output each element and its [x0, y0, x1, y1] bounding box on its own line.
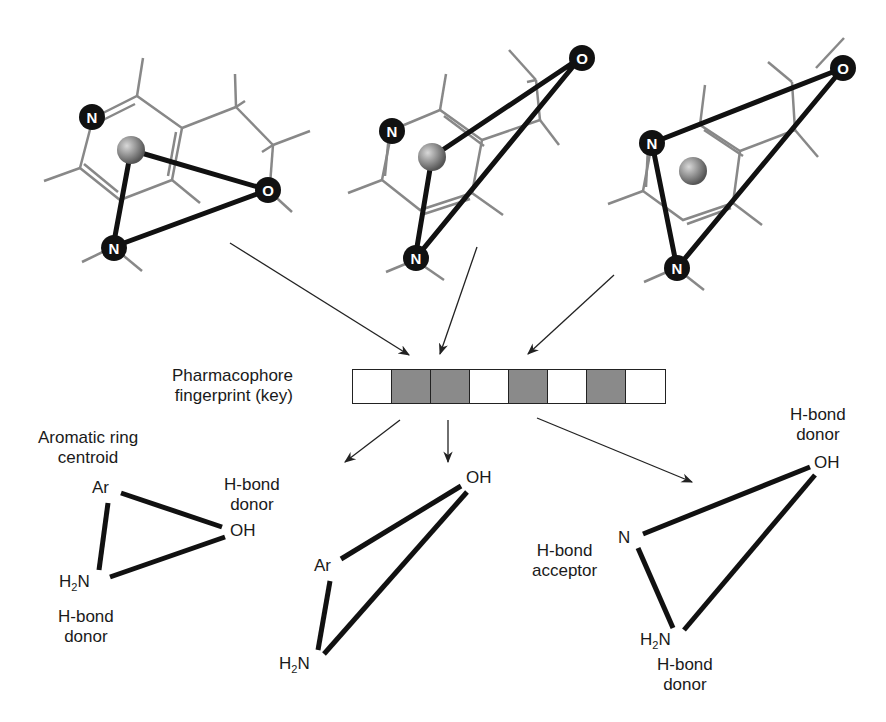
aromatic-centroid-label: Aromatic ring centroid [38, 428, 138, 468]
node-oh: OH [466, 468, 492, 488]
node-n: N [618, 528, 630, 548]
label-line: centroid [38, 448, 138, 468]
pharmacophore-3-edges [638, 467, 815, 630]
arrows-out [345, 418, 692, 482]
svg-text:O: O [576, 50, 588, 67]
node-nh2: H2N [279, 654, 310, 679]
label-line: H-bond [657, 655, 713, 675]
fingerprint-label-line2: fingerprint (key) [172, 386, 293, 406]
aromatic-centroid-ball [418, 143, 446, 171]
node-ar: Ar [92, 478, 109, 498]
svg-text:N: N [87, 109, 98, 126]
label-line: donor [58, 627, 114, 647]
label-line: Aromatic ring [38, 428, 138, 448]
molecule-2 [348, 50, 559, 280]
label-line: acceptor [532, 561, 597, 581]
fingerprint-bit-0 [353, 370, 392, 403]
arrow-icon [537, 418, 692, 482]
fingerprint-bar [352, 369, 666, 404]
svg-text:O: O [837, 60, 849, 77]
fingerprint-bit-5 [548, 370, 587, 403]
pharmacophore-1-edges [99, 493, 225, 577]
svg-text:N: N [411, 250, 422, 267]
fingerprint-bit-1 [392, 370, 431, 403]
label-line: H-bond [58, 607, 114, 627]
label-line: donor [224, 495, 280, 515]
diagram-graphics: N O N N [0, 0, 886, 722]
molecule-3 [608, 38, 844, 290]
hbond-donor-label: H-bond donor [224, 475, 280, 515]
label-line: donor [790, 425, 846, 445]
node-oh: OH [230, 521, 256, 541]
fingerprint-bit-6 [587, 370, 626, 403]
fingerprint-bit-3 [470, 370, 509, 403]
svg-text:N: N [672, 260, 683, 277]
arrow-icon [230, 243, 409, 355]
aromatic-centroid-ball [117, 136, 145, 164]
arrow-icon [528, 275, 614, 354]
pharmacophore-diagram: N O N N [0, 0, 886, 722]
fingerprint-label-line1: Pharmacophore [172, 366, 293, 386]
svg-text:N: N [647, 135, 658, 152]
arrow-icon [345, 420, 400, 462]
fingerprint-bit-2 [431, 370, 470, 403]
svg-text:N: N [109, 240, 120, 257]
node-nh2: H2N [640, 630, 671, 655]
label-line: H-bond [790, 405, 846, 425]
arrow-icon [440, 247, 477, 354]
aromatic-centroid-ball [679, 157, 707, 185]
label-line: H-bond [532, 541, 597, 561]
node-oh: OH [814, 453, 840, 473]
label-line: donor [657, 675, 713, 695]
hbond-donor-label: H-bond donor [790, 405, 846, 445]
svg-text:O: O [262, 182, 274, 199]
fingerprint-bit-4 [509, 370, 548, 403]
pharmacophore-2-edges [318, 486, 467, 654]
label-line: H-bond [224, 475, 280, 495]
node-ar: Ar [314, 556, 331, 576]
fingerprint-bit-7 [626, 370, 665, 403]
node-nh2: H2N [59, 572, 90, 597]
svg-text:N: N [387, 123, 398, 140]
hbond-donor-label: H-bond donor [58, 607, 114, 647]
fingerprint-label: Pharmacophore fingerprint (key) [172, 366, 293, 406]
molecule-1-pharmacophore-triangle [113, 150, 268, 247]
hbond-acceptor-label: H-bond acceptor [532, 541, 597, 581]
hbond-donor-label: H-bond donor [657, 655, 713, 695]
